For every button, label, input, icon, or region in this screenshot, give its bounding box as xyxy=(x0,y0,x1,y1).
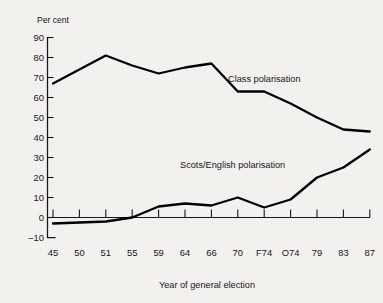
y-tick-label-90: 90 xyxy=(34,32,44,43)
series-line-class-polarisation xyxy=(53,56,370,132)
y-tick-label-80: 80 xyxy=(34,52,44,63)
y-tick-label-neg10: –10 xyxy=(28,232,44,243)
x-tick-label-50: 50 xyxy=(74,247,84,258)
y-tick-label-70: 70 xyxy=(34,72,44,83)
chart-figure: Per cent 90 80 70 60 50 40 30 20 10 0 –1… xyxy=(0,0,383,303)
series-label-scots-english-polarisation: Scots/English polarisation xyxy=(180,160,285,170)
x-tick-marks xyxy=(53,210,370,218)
y-tick-label-60: 60 xyxy=(34,92,44,103)
x-tick-label-59: 59 xyxy=(153,247,163,258)
x-tick-label-66: 66 xyxy=(206,247,216,258)
x-tick-label-o74: O74 xyxy=(282,247,300,258)
y-tick-marks xyxy=(48,38,54,218)
y-tick-label-40: 40 xyxy=(34,132,44,143)
y-axis-name: Per cent xyxy=(37,15,70,25)
x-tick-label-55: 55 xyxy=(127,247,137,258)
y-tick-label-50: 50 xyxy=(34,112,44,123)
line-chart: Per cent 90 80 70 60 50 40 30 20 10 0 –1… xyxy=(0,0,383,303)
series-label-class-polarisation: Class polarisation xyxy=(228,74,301,84)
x-tick-label-79: 79 xyxy=(312,247,322,258)
x-tick-label-51: 51 xyxy=(101,247,111,258)
x-axis-title: Year of general election xyxy=(159,280,255,290)
y-tick-label-10: 10 xyxy=(34,192,44,203)
x-tick-label-70: 70 xyxy=(233,247,243,258)
x-tick-label-f74: F74 xyxy=(256,247,272,258)
x-tick-label-64: 64 xyxy=(180,247,190,258)
x-tick-label-83: 83 xyxy=(338,247,348,258)
y-tick-label-20: 20 xyxy=(34,172,44,183)
x-tick-label-87: 87 xyxy=(365,247,375,258)
y-tick-label-0: 0 xyxy=(39,212,44,223)
x-tick-label-45: 45 xyxy=(48,247,58,258)
y-tick-label-30: 30 xyxy=(34,152,44,163)
